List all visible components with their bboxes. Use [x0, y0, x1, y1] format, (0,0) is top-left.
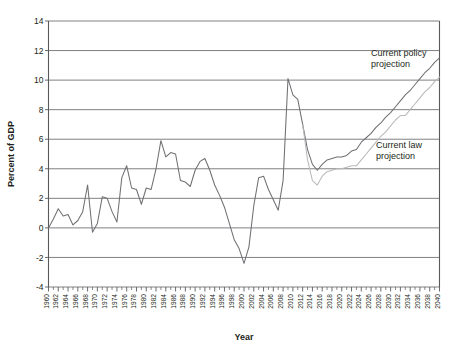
x-tick-label-1968: 1968 — [82, 294, 89, 309]
chart-figure: -4-202468101214 196019621964196619681970… — [0, 0, 454, 351]
y-tick-label-14: 14 — [34, 16, 44, 26]
x-tick-label-2034: 2034 — [404, 294, 411, 309]
series-line-current-policy-projection — [303, 58, 440, 170]
y-tick-label-2: 2 — [39, 193, 44, 203]
x-tick-label-2002: 2002 — [248, 294, 255, 309]
x-tick-label-2032: 2032 — [394, 294, 401, 309]
x-tick-label-2014: 2014 — [306, 294, 313, 309]
y-tick-label-8: 8 — [39, 105, 44, 115]
x-axis-title: Year — [234, 332, 254, 342]
x-tick-label-2022: 2022 — [346, 294, 353, 309]
x-tick-label-1966: 1966 — [72, 294, 79, 309]
series-line-historical — [49, 79, 303, 264]
x-tick-label-2018: 2018 — [326, 294, 333, 309]
y-tick-label-0: 0 — [39, 223, 44, 233]
x-tick-label-2010: 2010 — [287, 294, 294, 309]
x-tick-label-2004: 2004 — [258, 294, 265, 309]
x-tick-label-1964: 1964 — [62, 294, 69, 309]
x-tick-label-1978: 1978 — [130, 294, 137, 309]
current-law-projection-label: Current lawprojection — [376, 140, 423, 161]
x-tick-label-1974: 1974 — [111, 294, 118, 309]
x-tick-label-1976: 1976 — [121, 294, 128, 309]
deficit-line-chart: -4-202468101214 196019621964196619681970… — [0, 0, 454, 351]
x-tick-label-1970: 1970 — [91, 294, 98, 309]
x-tick-label-1962: 1962 — [52, 294, 59, 309]
x-axis-tick-marks — [49, 287, 440, 292]
y-axis-tick-labels: -4-202468101214 — [34, 16, 48, 292]
x-tick-label-2008: 2008 — [277, 294, 284, 309]
x-tick-label-1990: 1990 — [189, 294, 196, 309]
x-tick-label-2024: 2024 — [355, 294, 362, 309]
x-tick-label-2000: 2000 — [238, 294, 245, 309]
x-tick-label-1960: 1960 — [43, 294, 50, 309]
y-tick-label-12: 12 — [34, 46, 44, 56]
x-tick-label-1982: 1982 — [150, 294, 157, 309]
x-tick-label-1984: 1984 — [160, 294, 167, 309]
y-tick-label--2: -2 — [36, 253, 44, 263]
x-tick-label-1980: 1980 — [140, 294, 147, 309]
x-tick-label-1988: 1988 — [179, 294, 186, 309]
x-tick-label-1986: 1986 — [170, 294, 177, 309]
current-policy-projection-label: Current policyprojection — [371, 48, 427, 69]
x-tick-label-2028: 2028 — [375, 294, 382, 309]
y-tick-label-10: 10 — [34, 75, 44, 85]
x-tick-label-1994: 1994 — [209, 294, 216, 309]
x-tick-label-2016: 2016 — [316, 294, 323, 309]
series-annotations: Current policyprojectionCurrent lawproje… — [371, 48, 427, 161]
x-tick-label-2038: 2038 — [424, 294, 431, 309]
x-tick-label-1972: 1972 — [101, 294, 108, 309]
x-tick-label-2040: 2040 — [434, 294, 441, 309]
x-tick-label-2026: 2026 — [365, 294, 372, 309]
y-tick-label-4: 4 — [39, 164, 44, 174]
x-tick-label-2030: 2030 — [385, 294, 392, 309]
x-tick-label-1992: 1992 — [199, 294, 206, 309]
y-axis-title: Percent of GDP — [6, 121, 16, 187]
x-tick-label-1996: 1996 — [218, 294, 225, 309]
x-tick-label-2012: 2012 — [297, 294, 304, 309]
x-tick-label-2006: 2006 — [267, 294, 274, 309]
x-axis-tick-labels: 1960196219641966196819701972197419761978… — [43, 294, 441, 309]
x-tick-label-2020: 2020 — [336, 294, 343, 309]
y-tick-label-6: 6 — [39, 134, 44, 144]
x-tick-label-1998: 1998 — [228, 294, 235, 309]
y-tick-label--4: -4 — [36, 282, 44, 292]
x-tick-label-2036: 2036 — [414, 294, 421, 309]
